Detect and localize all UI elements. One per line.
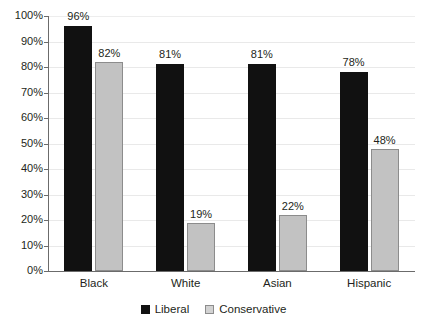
y-axis-tick [44, 195, 48, 196]
y-axis-tick-label: 80% [0, 61, 43, 72]
bar-value-label: 78% [343, 57, 365, 68]
bar-liberal-white[interactable]: 81% [156, 64, 184, 271]
y-axis-line [48, 16, 49, 272]
y-axis-tick-labels: 0%10%20%30%40%50%60%70%80%90%100% [0, 16, 43, 271]
bar-value-label: 81% [251, 49, 273, 60]
y-axis-tick [44, 246, 48, 247]
bar-value-label: 48% [374, 135, 396, 146]
legend-label: Conservative [219, 303, 286, 315]
bar-liberal-asian[interactable]: 81% [248, 64, 276, 271]
bar-conservative-black[interactable]: 82% [95, 62, 123, 271]
bar-group: 81%19% [156, 16, 215, 271]
x-axis-category-labels: BlackWhiteAsianHispanic [48, 276, 415, 292]
bar-value-label: 81% [159, 49, 181, 60]
category-label-white: White [171, 276, 200, 290]
bar-value-label: 19% [190, 209, 212, 220]
y-axis-tick [44, 16, 48, 17]
y-axis-tick [44, 118, 48, 119]
category-label-asian: Asian [263, 276, 292, 290]
y-axis-tick-label: 40% [0, 163, 43, 174]
y-axis-tick [44, 271, 48, 272]
plot-area: 96%82%81%19%81%22%78%48% [48, 16, 415, 271]
bar-group: 96%82% [64, 16, 123, 271]
y-axis-tick-label: 10% [0, 240, 43, 251]
bar-value-label: 82% [98, 48, 120, 59]
category-label-hispanic: Hispanic [347, 276, 391, 290]
y-axis-tick-label: 0% [0, 265, 43, 276]
y-axis-tick-label: 20% [0, 214, 43, 225]
bar-liberal-hispanic[interactable]: 78% [340, 72, 368, 271]
bar-value-label: 96% [67, 11, 89, 22]
legend-swatch-liberal-icon [141, 305, 150, 314]
y-axis-tick-label: 100% [0, 10, 43, 21]
x-axis-baseline [48, 271, 415, 272]
y-axis-tick [44, 42, 48, 43]
y-axis-tick [44, 144, 48, 145]
y-axis-tick-label: 70% [0, 87, 43, 98]
bar-value-label: 22% [282, 201, 304, 212]
y-axis-tick-label: 30% [0, 189, 43, 200]
y-axis-tick [44, 67, 48, 68]
bar-group: 78%48% [340, 16, 399, 271]
y-axis-tick-label: 90% [0, 36, 43, 47]
chart-legend: LiberalConservative [0, 303, 427, 315]
bar-conservative-white[interactable]: 19% [187, 223, 215, 271]
bar-conservative-asian[interactable]: 22% [279, 215, 307, 271]
y-axis-tick [44, 169, 48, 170]
bar-group: 81%22% [248, 16, 307, 271]
y-axis-tick [44, 220, 48, 221]
bar-liberal-black[interactable]: 96% [64, 26, 92, 271]
legend-swatch-conservative-icon [205, 305, 214, 314]
legend-item-liberal[interactable]: Liberal [141, 303, 190, 315]
y-axis-tick [44, 93, 48, 94]
y-axis-tick-label: 50% [0, 138, 43, 149]
category-label-black: Black [80, 276, 108, 290]
bar-chart: 0%10%20%30%40%50%60%70%80%90%100% 96%82%… [0, 0, 427, 328]
bar-conservative-hispanic[interactable]: 48% [371, 149, 399, 271]
legend-item-conservative[interactable]: Conservative [205, 303, 286, 315]
legend-label: Liberal [155, 303, 190, 315]
y-axis-tick-label: 60% [0, 112, 43, 123]
